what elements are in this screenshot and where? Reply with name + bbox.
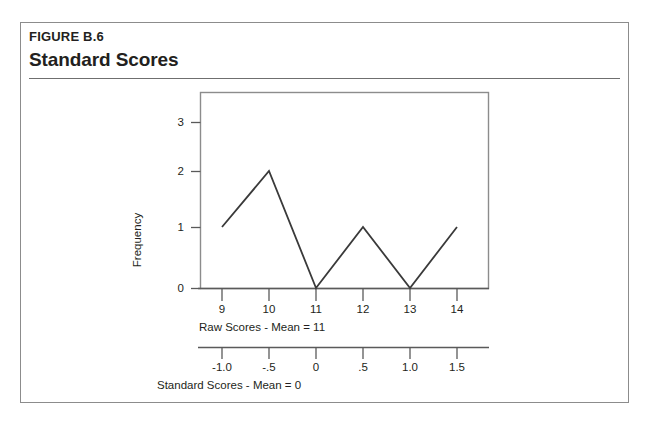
raw-tick-label: 14 [451,303,464,315]
standard-tick-label: .5 [358,361,368,373]
raw-tick-label: 11 [310,303,322,315]
standard-tick-label: 1.0 [402,361,418,373]
standard-tick-label: -1.0 [212,361,232,373]
title-divider [29,78,620,79]
y-tick-label: 1 [170,221,184,233]
standard-tick-label: 0 [313,361,319,373]
y-axis-title: Frequency [131,213,143,267]
x-axis-title: Raw Scores - Mean = 11 [199,321,325,333]
raw-tick-label: 12 [357,303,370,315]
standard-axis-title: Standard Scores - Mean = 0 [157,379,301,391]
page-title: Standard Scores [29,49,179,71]
raw-tick-label: 10 [263,303,276,315]
standard-tick-label: -.5 [262,361,275,373]
y-tick-label: 2 [170,165,184,177]
standard-tick-label: 1.5 [449,361,465,373]
y-tick-label: 3 [170,116,184,128]
raw-tick-label: 13 [404,303,417,315]
figure-number: FIGURE B.6 [29,29,104,44]
raw-tick-label: 9 [219,303,225,315]
figure-frame [20,22,629,403]
y-tick-label: 0 [170,282,184,294]
